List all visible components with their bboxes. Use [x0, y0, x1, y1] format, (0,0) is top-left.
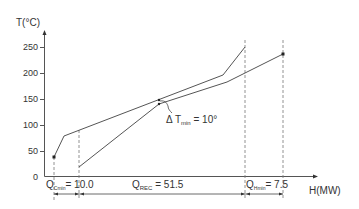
dtmin-annotation: Δ Tmin = 10°: [166, 114, 217, 126]
y-tick-50: 50: [28, 146, 38, 156]
x-axis-label: H(MW): [309, 185, 341, 196]
y-tick-0: 0: [33, 172, 38, 182]
y-tick-250: 250: [23, 42, 38, 52]
y-axis-label: T(°C): [16, 17, 40, 28]
qhmin-label: QHmin= 7.5: [246, 179, 288, 191]
y-tick-150: 150: [23, 94, 38, 104]
x-axis-arrow-icon: [313, 175, 318, 179]
hot-composite-curve: [54, 47, 245, 157]
qrec-label: QREC = 51.5: [132, 179, 184, 191]
y-tick-200: 200: [23, 68, 38, 78]
y-tick-100: 100: [23, 120, 38, 130]
cold-composite-curve: [79, 54, 283, 167]
y-axis-arrow-icon: [43, 30, 47, 35]
composite-curves-chart: 0 50 100 150 200 250 T(°C) H(MW) Δ Tmin …: [0, 0, 359, 209]
cold-end-marker: [282, 53, 285, 56]
qcmin-label: QCmin= 10.0: [46, 179, 94, 191]
chart-svg: 0 50 100 150 200 250 T(°C) H(MW) Δ Tmin …: [0, 0, 359, 209]
hot-start-marker: [53, 156, 56, 159]
